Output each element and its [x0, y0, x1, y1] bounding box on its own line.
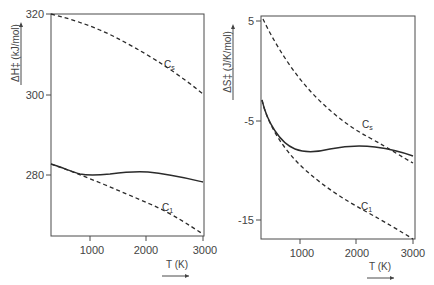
- xtick-label-1000: 1000: [80, 244, 104, 256]
- ytick-label-minus5: -5: [244, 115, 254, 127]
- series-total-line: [262, 100, 413, 156]
- y-axis-title: ΔS‡ (J/K/mol): [222, 31, 233, 93]
- series-c1-line: [51, 164, 203, 234]
- curve-label-cs: Cs: [164, 59, 175, 71]
- left-panel-enthalpy: 320 300 280 1000 2000 3000 T (K) ΔH‡ (kJ…: [10, 8, 217, 278]
- left-plot-frame: [51, 14, 204, 236]
- right-panel-entropy: 5 -5 -15 1000 2000 3000 T (K) ΔS‡ (J/K/m…: [222, 15, 425, 280]
- x-axis-title: T (K): [369, 261, 391, 272]
- right-plot-frame: [261, 16, 415, 239]
- curve-label-c1: C1: [162, 202, 173, 214]
- xtick-label-3000: 3000: [193, 244, 217, 256]
- curve-label-cs: Cs: [362, 119, 373, 131]
- series-cs-line: [51, 14, 203, 94]
- xtick-label-2000: 2000: [345, 247, 369, 259]
- arrowhead-icon: [185, 274, 189, 278]
- y-axis-title-group: ΔS‡ (J/K/mol): [222, 31, 233, 93]
- arrowhead-icon: [390, 276, 394, 280]
- series-cs-line: [263, 19, 413, 163]
- xtick-label-1000: 1000: [290, 247, 314, 259]
- ytick-label-300: 300: [26, 89, 44, 101]
- arrowhead-icon: [231, 24, 235, 29]
- figure: 320 300 280 1000 2000 3000 T (K) ΔH‡ (kJ…: [0, 0, 434, 285]
- xtick-label-3000: 3000: [401, 247, 425, 259]
- series-c1-line: [262, 100, 413, 239]
- ytick-label-280: 280: [26, 169, 44, 181]
- y-axis-title: ΔH‡ (kJ/mol): [10, 24, 21, 82]
- xtick-label-2000: 2000: [134, 244, 158, 256]
- y-axis-title-group: ΔH‡ (kJ/mol): [10, 24, 21, 82]
- curve-label-c1: C1: [361, 201, 372, 213]
- ytick-label-5: 5: [248, 15, 254, 27]
- ytick-label-320: 320: [26, 8, 44, 20]
- x-axis-title: T (K): [166, 259, 188, 270]
- ytick-label-minus15: -15: [238, 214, 254, 226]
